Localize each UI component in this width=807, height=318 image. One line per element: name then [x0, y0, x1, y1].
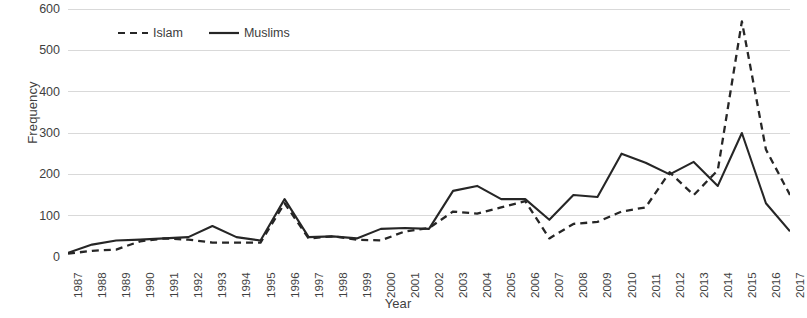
x-axis-tick-label: 1995 [266, 272, 278, 298]
x-axis-tick-label: 1992 [193, 272, 205, 298]
legend-swatch-dashed-icon [118, 28, 148, 38]
x-axis-tick-label: 1994 [241, 272, 253, 298]
x-axis-tick-label: 1998 [338, 272, 350, 298]
x-axis-tick-label: 2003 [458, 272, 470, 298]
plot-canvas [68, 9, 790, 257]
x-axis-tick-label: 1987 [73, 272, 85, 298]
x-axis-tick-label: 2013 [699, 272, 711, 298]
x-axis-tick-label: 1997 [314, 272, 326, 298]
x-axis-tick-label: 2016 [771, 272, 783, 298]
x-axis-tick-label: 2004 [482, 272, 494, 298]
legend-label: Islam [153, 27, 183, 40]
legend-swatch-solid-icon [209, 28, 239, 38]
x-axis-title: Year [0, 296, 796, 311]
x-axis-tick-label: 1991 [169, 272, 181, 298]
x-axis-tick-label: 2008 [578, 272, 590, 298]
x-axis-tick-label: 1988 [97, 272, 109, 298]
x-axis-tick-label: 1990 [145, 272, 157, 298]
chart-legend: IslamMuslims [118, 27, 290, 40]
x-axis-tick-label: 2012 [675, 272, 687, 298]
x-axis-tick-label: 2015 [747, 272, 759, 298]
x-axis-tick-label: 2007 [554, 272, 566, 298]
x-axis-tick-label: 2010 [627, 272, 639, 298]
y-axis-tick-label: 0 [20, 251, 60, 264]
y-axis-tick-label: 200 [20, 168, 60, 181]
x-axis-tick-label: 1993 [217, 272, 229, 298]
x-axis-tick-label: 2002 [434, 272, 446, 298]
legend-item[interactable]: Islam [118, 27, 183, 40]
legend-item[interactable]: Muslims [209, 27, 290, 40]
x-axis-tick-label: 2014 [723, 272, 735, 298]
x-axis-tick-label: 1996 [290, 272, 302, 298]
x-axis-tick-label: 2000 [386, 272, 398, 298]
x-axis-tick-label: 1999 [362, 272, 374, 298]
x-axis-tick-label: 2006 [530, 272, 542, 298]
x-axis-tick-label: 1989 [121, 272, 133, 298]
series-line-islam [68, 21, 790, 253]
y-axis-tick-labels: 0100200300400500600 [12, 0, 60, 318]
legend-label: Muslims [244, 27, 290, 40]
x-axis-tick-label: 2001 [410, 272, 422, 298]
y-axis-tick-label: 600 [20, 3, 60, 16]
series-line-muslims [68, 133, 790, 253]
y-axis-tick-label: 100 [20, 210, 60, 223]
x-axis-tick-label: 2011 [651, 273, 663, 298]
plot-area [68, 9, 790, 257]
y-axis-tick-label: 400 [20, 86, 60, 99]
x-axis-tick-label: 2009 [602, 272, 614, 298]
x-axis-tick-label: 2017 [795, 272, 807, 298]
x-axis-tick-label: 2005 [506, 272, 518, 298]
y-axis-tick-label: 300 [20, 127, 60, 140]
y-axis-tick-label: 500 [20, 44, 60, 57]
